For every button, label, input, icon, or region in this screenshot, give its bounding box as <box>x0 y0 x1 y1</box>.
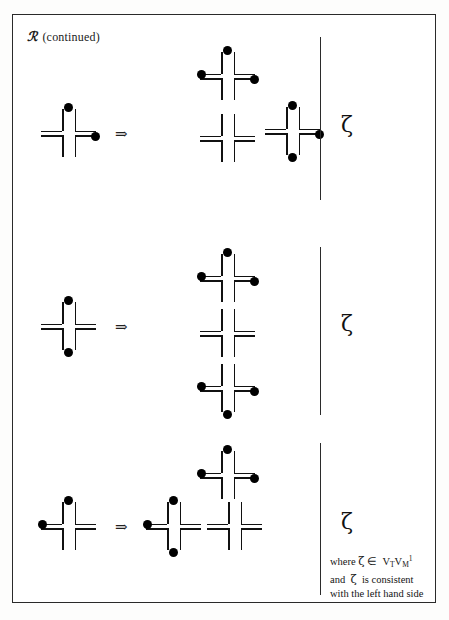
segment-bottom-left-h <box>265 133 286 135</box>
dot-left <box>197 469 206 478</box>
segment-bottom-left-h <box>200 335 221 337</box>
segment-top-right-h <box>180 524 201 526</box>
segment-bottom-right-v <box>180 528 182 550</box>
segment-top-right-v <box>299 107 301 129</box>
dot-right <box>250 277 259 286</box>
segment-bottom-right-h <box>234 140 255 142</box>
segment-top-right-h <box>75 324 96 326</box>
segment-bottom-right-v <box>234 335 236 357</box>
note-set-vm: VM1 <box>395 556 413 567</box>
segment-top-left-v <box>286 107 288 129</box>
segment-top-left-h <box>265 129 286 131</box>
segment-top-right-h <box>234 136 255 138</box>
segment-bottom-left-v <box>221 335 223 357</box>
segment-bottom-left-v <box>62 135 64 157</box>
note-set-vm-sub: M <box>402 560 409 569</box>
note-set-vm-sup: 1 <box>409 554 413 563</box>
segment-top-left-v <box>221 52 223 74</box>
segment-bottom-left-h <box>41 328 62 330</box>
segment-top-left-v <box>221 364 223 386</box>
segment-top-left-h <box>207 524 228 526</box>
segment-top-left-v <box>221 309 223 331</box>
dot-right <box>250 474 259 483</box>
figure-frame: ℛ (continued) ⇒ <box>12 14 436 603</box>
segment-top-left-v <box>221 451 223 473</box>
segment-bottom-right-v <box>75 135 77 157</box>
segment-top-right-h <box>241 524 262 526</box>
segment-top-right-v <box>234 309 236 331</box>
segment-bottom-left-v <box>167 528 169 550</box>
rule1-rhs-upper-plaquette <box>200 48 256 104</box>
dot-right <box>91 132 100 141</box>
rule1-rhs-lower-left-plaquette <box>200 110 256 166</box>
dot-top <box>64 296 73 305</box>
segment-bottom-left-v <box>286 133 288 155</box>
segment-bottom-right-v <box>299 133 301 155</box>
rule3-rhs-upper-plaquette <box>200 447 256 503</box>
note-zeta-1: ζ <box>358 554 364 568</box>
rule3-arrow: ⇒ <box>115 518 128 536</box>
rule3-divider <box>320 443 321 595</box>
note-zeta-2: ζ <box>350 572 356 586</box>
segment-bottom-right-v <box>234 390 236 412</box>
dot-bottom <box>223 410 232 419</box>
rule2-arrow: ⇒ <box>115 318 128 336</box>
segment-bottom-right-v <box>75 528 77 550</box>
rule2-label-zeta: ζ <box>341 311 353 336</box>
dot-left <box>197 70 206 79</box>
dot-top <box>169 496 178 505</box>
dot-bottom <box>64 348 73 357</box>
dot-top <box>223 445 232 454</box>
dot-top <box>223 46 232 55</box>
segment-top-left-v <box>221 114 223 136</box>
note-consistent-text: is consistent <box>362 574 414 585</box>
rule1-lhs-plaquette <box>41 105 97 161</box>
rule1-divider <box>320 37 321 200</box>
segment-bottom-right-h <box>75 328 96 330</box>
segment-top-right-v <box>241 502 243 524</box>
segment-top-right-h <box>75 524 96 526</box>
dot-left <box>143 520 152 529</box>
dot-right <box>250 387 259 396</box>
segment-bottom-left-v <box>221 78 223 100</box>
dot-top <box>288 101 297 110</box>
condition-note-line-1: where ζ ∈ VTVM1 <box>330 552 448 572</box>
segment-bottom-left-v <box>62 328 64 350</box>
segment-top-right-v <box>75 109 77 131</box>
rule2-lhs-plaquette <box>41 298 97 354</box>
segment-bottom-left-h <box>200 140 221 142</box>
note-set-vt: VT <box>382 556 394 567</box>
segment-top-right-v <box>234 114 236 136</box>
segment-top-left-v <box>62 502 64 524</box>
dot-bottom <box>169 548 178 557</box>
dot-top <box>64 103 73 112</box>
segment-top-right-v <box>234 451 236 473</box>
segment-bottom-right-v <box>234 140 236 162</box>
segment-bottom-right-v <box>241 528 243 550</box>
dot-left <box>38 520 47 529</box>
rule1-label-zeta: ζ <box>341 112 353 137</box>
segment-bottom-right-v <box>234 78 236 100</box>
segment-top-right-v <box>234 364 236 386</box>
segment-bottom-left-h <box>207 528 228 530</box>
segment-bottom-right-h <box>75 528 96 530</box>
rule3-lhs-plaquette <box>41 498 97 554</box>
condition-note: where ζ ∈ VTVM1 and ζ is consistent with… <box>330 552 448 601</box>
note-set-vt-base: V <box>382 556 390 567</box>
segment-top-left-v <box>62 109 64 131</box>
segment-top-right-v <box>234 254 236 276</box>
segment-top-left-v <box>228 502 230 524</box>
rule2-divider <box>320 247 321 415</box>
rule1-rhs-lower-right-plaquette <box>265 103 321 159</box>
rule2-rhs-top-plaquette <box>200 250 256 306</box>
segment-bottom-right-h <box>180 528 201 530</box>
figure-caption: ℛ (continued) <box>27 29 100 45</box>
caption-symbol: ℛ <box>27 29 39 44</box>
segment-top-right-v <box>234 52 236 74</box>
segment-top-right-h <box>234 331 255 333</box>
segment-bottom-left-h <box>41 135 62 137</box>
rule3-rhs-lower-right-plaquette <box>207 498 263 554</box>
note-where-label: where <box>330 556 356 567</box>
segment-top-right-v <box>75 302 77 324</box>
segment-bottom-right-h <box>234 335 255 337</box>
